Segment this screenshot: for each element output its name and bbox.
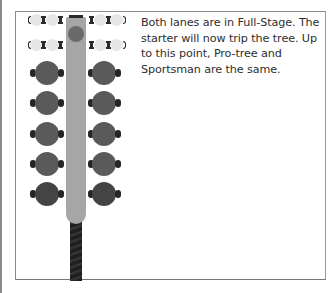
stage-right-bulb-2 (110, 39, 123, 51)
amber-3-lights (16, 122, 141, 146)
pre-stage-right-end-icon (123, 16, 126, 24)
red-left-bulb (35, 182, 59, 206)
green-left-bulb (35, 152, 59, 176)
amber-3-right-bulb (92, 122, 116, 146)
instruction-text: Both lanes are in Full-Stage. The starte… (141, 15, 321, 77)
left-bulb-mount-icon (58, 190, 64, 198)
stage-lights (16, 39, 141, 51)
christmas-tree (16, 12, 141, 281)
left-bulb-mount-icon (58, 69, 64, 77)
right-bulb-mount-icon (115, 69, 121, 77)
red-right-bulb (92, 182, 116, 206)
amber-3-left-bulb (35, 122, 59, 146)
stage-left-separator-icon (59, 41, 62, 49)
amber-1-lights (16, 61, 141, 85)
window-edge (0, 0, 2, 293)
green-lights (16, 152, 141, 176)
left-bulb-mount-icon (58, 160, 64, 168)
amber-2-right-bulb (92, 91, 116, 115)
green-right-bulb (92, 152, 116, 176)
christmas-tree-panel: Both lanes are in Full-Stage. The starte… (15, 11, 326, 280)
amber-2-left-bulb (35, 91, 59, 115)
right-bulb-mount-icon (115, 190, 121, 198)
red-lights (16, 182, 141, 206)
left-bulb-mount-icon (58, 130, 64, 138)
pre-stage-right-separator-icon (90, 16, 93, 24)
stage-right-end-icon (123, 41, 126, 49)
amber-2-lights (16, 91, 141, 115)
left-bulb-mount-icon (58, 99, 64, 107)
stage-right-separator-icon (90, 41, 93, 49)
pre-stage-right-bulb-2 (110, 14, 123, 26)
right-bulb-mount-icon (115, 130, 121, 138)
amber-1-left-bulb (35, 61, 59, 85)
pre-stage-lights (16, 14, 141, 26)
right-bulb-mount-icon (115, 160, 121, 168)
pre-stage-left-separator-icon (59, 16, 62, 24)
stage-left-separator-icon (42, 41, 45, 49)
pre-stage-left-separator-icon (42, 16, 45, 24)
amber-1-right-bulb (92, 61, 116, 85)
right-bulb-mount-icon (115, 99, 121, 107)
